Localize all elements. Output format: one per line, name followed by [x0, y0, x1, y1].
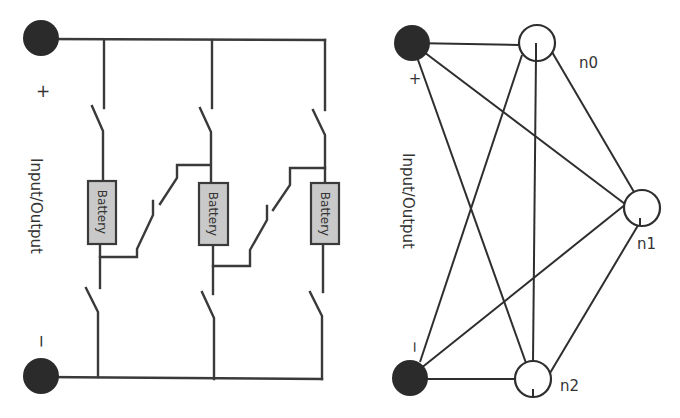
left-plus-sign: + [36, 81, 50, 101]
bottom-rail [41, 377, 322, 379]
battery-3-label: Battery [318, 192, 332, 236]
left-negative-terminal [23, 358, 59, 394]
col3-bottom-switch [310, 292, 322, 379]
battery-2: Battery [199, 183, 228, 245]
right-minus-sign: − [406, 341, 424, 354]
edge-plus-n2 [412, 43, 526, 363]
node-n1-label: n1 [637, 235, 656, 253]
series-switch-2-3 [213, 168, 325, 266]
edge-n0-n2 [533, 55, 536, 362]
col3-top-switch [313, 110, 325, 183]
node-n0-label: n0 [579, 54, 598, 72]
node-graph: n0 n1 n2 + − Input/Output [392, 25, 660, 397]
left-io-label: Input/Output [27, 158, 45, 254]
left-minus-sign: − [32, 334, 52, 348]
battery-1-label: Battery [95, 190, 109, 234]
right-negative-terminal [392, 360, 428, 396]
node-n2-label: n2 [560, 377, 579, 395]
right-plus-sign: + [409, 70, 422, 88]
col2-bottom-switch [202, 292, 214, 379]
node-n1 [624, 190, 660, 226]
edge-n1-n2 [550, 222, 640, 373]
battery-1: Battery [88, 181, 116, 244]
edge-minus-n0 [420, 55, 522, 362]
col1-bottom-switch [86, 288, 98, 377]
graph-edges [410, 43, 640, 379]
top-rail [41, 39, 325, 40]
right-positive-terminal [394, 25, 430, 61]
col1-top-switch [92, 106, 103, 181]
battery-2-label: Battery [206, 192, 220, 236]
battery-circuit: Battery Battery Battery + − Input/Output [23, 20, 339, 394]
battery-3: Battery [311, 183, 339, 244]
edge-n0-n1 [552, 52, 634, 192]
edge-minus-n1 [410, 204, 626, 377]
right-io-label: Input/Output [399, 153, 417, 249]
col2-top-switch [200, 108, 211, 183]
diagram-canvas: Battery Battery Battery + − Input/Output [0, 0, 680, 418]
left-positive-terminal [23, 20, 59, 56]
